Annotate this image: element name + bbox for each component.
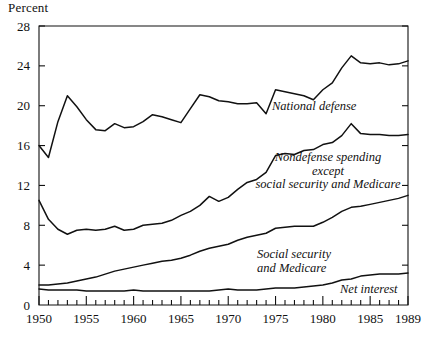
y-axis-tick-label: 16 xyxy=(6,139,30,152)
series-label-nondefense-spending: Nondefense spending except social securi… xyxy=(248,151,408,192)
series-label-social-security-line-1: Social security xyxy=(257,248,331,262)
y-axis-tick-label: 8 xyxy=(6,219,30,232)
x-axis-tick-label: 1955 xyxy=(63,312,109,325)
y-axis-tick-label: 12 xyxy=(6,179,30,192)
chart-figure: Percent 0481216202428 195019551960196519… xyxy=(0,0,422,339)
series-line-2 xyxy=(39,195,408,285)
series-label-net-interest: Net interest xyxy=(340,283,398,297)
series-label-social-security: Social security and Medicare xyxy=(257,248,331,275)
y-axis-tick-label: 24 xyxy=(6,59,30,72)
x-axis-tick-label: 1970 xyxy=(205,312,251,325)
x-axis-tick-label: 1989 xyxy=(385,312,422,325)
series-label-national-defense: National defense xyxy=(272,100,356,114)
series-label-social-security-line-2: and Medicare xyxy=(257,262,331,276)
y-axis-tick-label: 4 xyxy=(6,259,30,272)
series-label-nondefense-line-3: social security and Medicare xyxy=(248,178,408,192)
y-axis-tick-label: 0 xyxy=(6,299,30,312)
x-axis-tick-label: 1965 xyxy=(158,312,204,325)
series-label-nondefense-line-1: Nondefense spending xyxy=(248,151,408,165)
x-axis-tick-label: 1960 xyxy=(111,312,157,325)
x-axis-tick-label: 1975 xyxy=(253,312,299,325)
y-axis-tick-label: 28 xyxy=(6,20,30,33)
x-axis-tick-label: 1950 xyxy=(16,312,62,325)
series-label-nondefense-line-2: except xyxy=(248,165,408,179)
y-axis-tick-label: 20 xyxy=(6,99,30,112)
x-axis-tick-label: 1980 xyxy=(300,312,346,325)
